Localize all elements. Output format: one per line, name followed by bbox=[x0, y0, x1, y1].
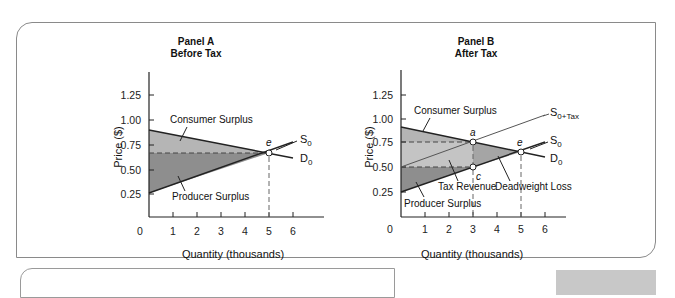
svg-text:a: a bbox=[470, 127, 476, 138]
x-ticks: 0 1 2 3 4 5 6 bbox=[387, 212, 548, 235]
deadweight-loss-label: Deadweight Loss bbox=[495, 181, 572, 192]
equilibrium-point-e bbox=[266, 150, 272, 156]
svg-text:e: e bbox=[517, 137, 523, 148]
y-axis-title: Price ($) bbox=[112, 126, 124, 168]
svg-text:5: 5 bbox=[266, 225, 272, 237]
svg-text:0.50: 0.50 bbox=[373, 161, 394, 173]
svg-text:0.25: 0.25 bbox=[121, 188, 142, 200]
svg-text:1.25: 1.25 bbox=[121, 89, 142, 101]
svg-text:6: 6 bbox=[542, 223, 548, 235]
svg-text:4: 4 bbox=[242, 225, 248, 237]
y-axis-title: Price ($) bbox=[363, 126, 375, 168]
panel-a: Panel A Before Tax 1.25 1.00 0.75 0.50 0… bbox=[112, 36, 324, 260]
panel-b-title: Panel B bbox=[458, 36, 495, 47]
point-e bbox=[518, 149, 524, 155]
point-a bbox=[470, 139, 476, 145]
svg-text:6: 6 bbox=[290, 225, 296, 237]
x-axis-title: Quantity (thousands) bbox=[421, 248, 523, 260]
x-axis-title: Quantity (thousands) bbox=[182, 248, 284, 260]
svg-text:1.25: 1.25 bbox=[373, 89, 394, 101]
x-ticks: 0 1 2 3 4 5 6 bbox=[137, 212, 296, 237]
label-d0: D0 bbox=[550, 152, 563, 167]
consumer-surplus-label: Consumer Surplus bbox=[414, 105, 497, 116]
svg-text:1: 1 bbox=[170, 225, 176, 237]
svg-text:e: e bbox=[266, 137, 272, 148]
svg-text:1.00: 1.00 bbox=[121, 114, 142, 126]
panel-a-subtitle: Before Tax bbox=[171, 48, 222, 59]
deadweight-loss-area bbox=[473, 142, 521, 167]
svg-text:2: 2 bbox=[194, 225, 200, 237]
panel-b-subtitle: After Tax bbox=[455, 48, 498, 59]
svg-text:0: 0 bbox=[137, 225, 143, 237]
tax-revenue-label: Tax Revenue bbox=[438, 181, 497, 192]
label-s0: S0 bbox=[550, 134, 562, 149]
panel-b: Panel B After Tax 1.25 1.00 0.75 0.50 0.… bbox=[363, 36, 579, 260]
panel-a-title: Panel A bbox=[178, 36, 214, 47]
label-s0-tax: S0+Tax bbox=[550, 106, 579, 121]
label-s0: S0 bbox=[300, 133, 312, 148]
point-c bbox=[470, 164, 476, 170]
label-d0: D0 bbox=[300, 152, 313, 167]
svg-text:0.25: 0.25 bbox=[373, 186, 394, 198]
svg-text:4: 4 bbox=[494, 223, 500, 235]
svg-text:1.00: 1.00 bbox=[373, 113, 394, 125]
producer-surplus-label: Producer Surplus bbox=[172, 191, 249, 202]
svg-text:0.75: 0.75 bbox=[373, 136, 394, 148]
svg-text:2: 2 bbox=[446, 223, 452, 235]
svg-text:1: 1 bbox=[422, 223, 428, 235]
consumer-surplus-label: Consumer Surplus bbox=[170, 114, 253, 125]
svg-text:5: 5 bbox=[518, 223, 524, 235]
svg-text:0: 0 bbox=[387, 223, 393, 235]
svg-text:3: 3 bbox=[218, 225, 224, 237]
svg-text:3: 3 bbox=[470, 223, 476, 235]
producer-surplus-label: Producer Surplus bbox=[404, 198, 481, 209]
